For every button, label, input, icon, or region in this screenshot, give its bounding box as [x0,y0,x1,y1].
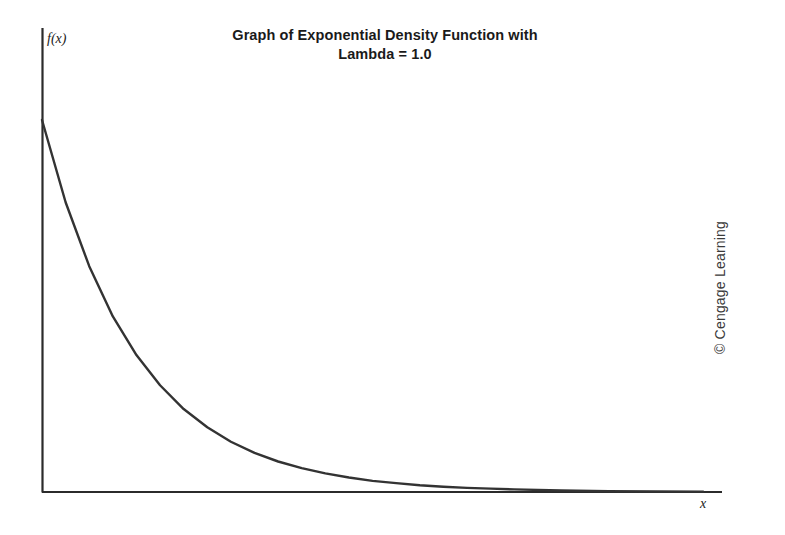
exponential-density-curve [42,120,703,492]
y-axis-label: f(x) [47,31,66,47]
plot-area [0,0,785,535]
chart-figure: Graph of Exponential Density Function wi… [0,0,785,535]
copyright-credit: © Cengage Learning [712,184,736,354]
x-axis-label: x [700,496,706,512]
